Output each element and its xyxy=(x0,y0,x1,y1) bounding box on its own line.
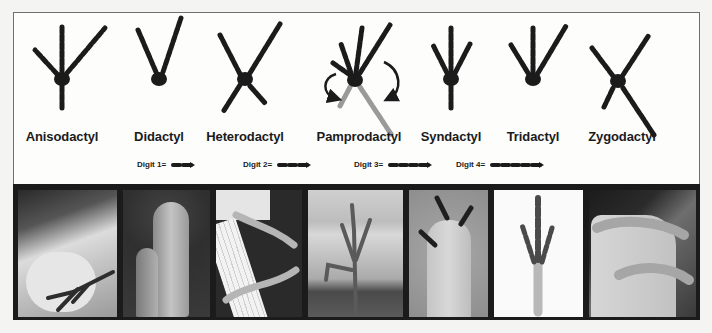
label-pamprodactyl: Pamprodactyl xyxy=(317,129,402,144)
label-zygodactyl: Zygodactyl xyxy=(588,129,656,144)
legend-digit-3: Digit 3= xyxy=(354,160,432,169)
syndactyl-diagram xyxy=(433,28,470,109)
didactyl-diagram xyxy=(138,18,181,72)
label-didactyl: Didactyl xyxy=(134,129,184,144)
legend-digit-2-label: Digit 2= xyxy=(243,160,272,169)
heterodactyl-photo xyxy=(216,190,302,317)
anisodactyl-photo xyxy=(18,190,117,317)
pamprodactyl-diagram xyxy=(333,25,390,75)
tridactyl-photo xyxy=(494,190,583,317)
digit-3-segments-icon xyxy=(388,162,432,168)
label-anisodactyl: Anisodactyl xyxy=(26,129,99,144)
reversible-toes xyxy=(340,87,391,134)
digit-2-segments-icon xyxy=(277,162,311,168)
label-heterodactyl: Heterodactyl xyxy=(206,129,284,144)
label-syndactyl: Syndactyl xyxy=(421,129,482,144)
zygodactyl-photo xyxy=(589,190,696,317)
legend-digit-1-label: Digit 1= xyxy=(137,160,166,169)
anisodactyl-diagram xyxy=(35,27,105,109)
tridactyl-diagram xyxy=(511,26,566,73)
digit-4-segments-icon xyxy=(490,162,544,168)
pamprodactyl-photo xyxy=(308,190,403,317)
toe-arrangement-diagrams xyxy=(0,0,712,184)
legend-digit-4-label: Digit 4= xyxy=(456,160,485,169)
heel-pads xyxy=(54,72,626,88)
syndactyl-photo xyxy=(409,190,488,317)
photo-strip xyxy=(13,184,700,320)
didactyl-photo xyxy=(123,190,210,317)
legend-digit-3-label: Digit 3= xyxy=(354,160,383,169)
heterodactyl-diagram xyxy=(220,24,280,112)
foot-diagrams-panel: Anisodactyl Didactyl Heterodactyl Pampro… xyxy=(0,0,712,184)
legend-digit-1: Digit 1= xyxy=(137,160,195,169)
digit-1-segments-icon xyxy=(171,162,195,168)
label-tridactyl: Tridactyl xyxy=(507,129,560,144)
legend-digit-4: Digit 4= xyxy=(456,160,544,169)
legend-digit-2: Digit 2= xyxy=(243,160,311,169)
